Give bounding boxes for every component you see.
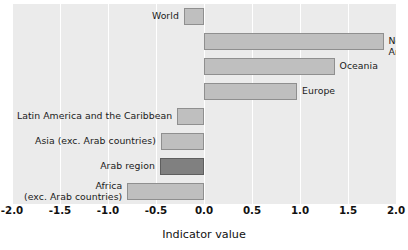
bar-label: Arab region bbox=[100, 161, 155, 172]
bar[interactable] bbox=[161, 133, 204, 150]
bar[interactable] bbox=[184, 8, 204, 25]
x-axis-title: Indicator value bbox=[0, 228, 408, 241]
bar[interactable] bbox=[160, 158, 204, 175]
x-tick-label: 2.0 bbox=[387, 204, 405, 216]
bar-chart: WorldNorth AmericaOceaniaEuropeLatin Ame… bbox=[0, 0, 408, 250]
plot-area: WorldNorth AmericaOceaniaEuropeLatin Ame… bbox=[12, 4, 396, 204]
bar[interactable] bbox=[204, 33, 384, 50]
bar-label: Oceania bbox=[340, 61, 378, 72]
bar-label: World bbox=[152, 11, 179, 22]
bar-label: Asia (exc. Arab countries) bbox=[35, 136, 156, 147]
x-tick-label: 0.5 bbox=[243, 204, 261, 216]
bar-row: Latin America and the Caribbean bbox=[12, 107, 396, 127]
x-tick-label: -1.5 bbox=[49, 204, 72, 216]
x-tick-label: 1.5 bbox=[339, 204, 357, 216]
bar-label: North America bbox=[389, 36, 396, 57]
bar[interactable] bbox=[127, 183, 204, 200]
bar-row: Europe bbox=[12, 82, 396, 102]
bar-row: Arab region bbox=[12, 157, 396, 177]
x-tick-label: 0.0 bbox=[195, 204, 213, 216]
bar-label: Africa (exc. Arab countries) bbox=[24, 181, 122, 202]
bar-label: Latin America and the Caribbean bbox=[17, 111, 172, 122]
x-axis: -2.0-1.5-1.0-0.50.00.51.01.52.0 bbox=[12, 204, 396, 222]
x-tick-label: -1.0 bbox=[97, 204, 120, 216]
bar[interactable] bbox=[177, 108, 204, 125]
x-tick-label: -2.0 bbox=[1, 204, 24, 216]
bar-label: Europe bbox=[302, 86, 335, 97]
bar-row: North America bbox=[12, 32, 396, 52]
bar[interactable] bbox=[204, 58, 335, 75]
bar-row: Oceania bbox=[12, 57, 396, 77]
bar-row: Asia (exc. Arab countries) bbox=[12, 132, 396, 152]
bar-row: Africa (exc. Arab countries) bbox=[12, 182, 396, 202]
x-tick-label: -0.5 bbox=[145, 204, 168, 216]
x-tick-label: 1.0 bbox=[291, 204, 309, 216]
bar[interactable] bbox=[204, 83, 297, 100]
bar-row: World bbox=[12, 7, 396, 27]
